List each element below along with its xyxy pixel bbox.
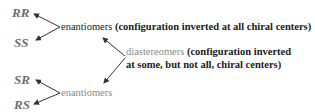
arrow-to-rr <box>34 14 60 27</box>
stereoisomer-ss: SS <box>14 36 28 49</box>
top-enantiomers-description: (configuration inverted at all chiral ce… <box>115 21 311 32</box>
diastereomers-description-line2: at some, but not all, chiral centers) <box>126 59 281 71</box>
top-enantiomers-term: enantiomers <box>61 21 112 32</box>
arrow-to-top-enantiomers <box>103 38 125 56</box>
arrow-to-bottom-enantiomers <box>104 58 125 83</box>
stereoisomer-rs: RS <box>14 98 30 111</box>
top-enantiomers-relation: enantiomers (configuration inverted at a… <box>61 21 311 33</box>
bottom-enantiomers-term: enantiomers <box>61 87 112 99</box>
arrow-to-ss <box>36 27 60 40</box>
arrow-to-sr <box>36 80 60 93</box>
arrow-to-rs <box>34 93 60 104</box>
stereoisomer-sr: SR <box>14 73 30 86</box>
diastereomers-description-line1: (configuration inverted <box>187 46 291 57</box>
diastereomers-relation: diastereomers (configuration inverted <box>126 46 291 58</box>
stereoisomer-rr: RR <box>12 6 29 19</box>
diastereomers-term: diastereomers <box>126 46 184 57</box>
